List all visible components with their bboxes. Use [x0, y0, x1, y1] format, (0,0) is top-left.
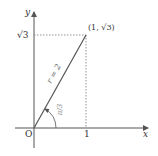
- polar-diagram: [0, 0, 158, 156]
- x-tick-label: 1: [84, 130, 90, 139]
- y-axis-label: y: [25, 8, 30, 17]
- x-axis-label: x: [143, 130, 148, 139]
- angle-label: π/3: [57, 104, 64, 115]
- angle-arc: [45, 109, 56, 128]
- origin-label: O: [25, 130, 32, 139]
- y-tick-label: √3: [17, 31, 28, 40]
- point-label: (1, √3): [88, 24, 115, 32]
